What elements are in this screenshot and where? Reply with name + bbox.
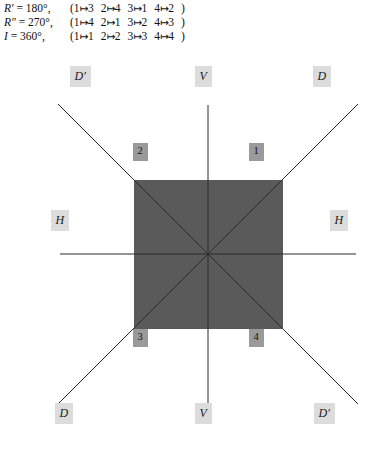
equation-line: I = 360°, (1↦12↦23↦34↦4) — [4, 30, 304, 44]
mapsto-icon: ↦ — [133, 16, 141, 28]
map-to: 1 — [115, 16, 121, 28]
mapping: 4↦2 — [154, 2, 174, 14]
mapsto-icon: ↦ — [133, 30, 141, 42]
equation-permutation: (1↦12↦23↦34↦4) — [70, 30, 185, 42]
map-to: 3 — [88, 2, 94, 14]
corner-label-1: 1 — [249, 143, 264, 161]
equation-lhs: R″ = 270°, — [4, 16, 70, 28]
equation-symbol: I — [4, 30, 8, 42]
equation-lhs: R′ = 180°, — [4, 2, 70, 14]
mapsto-icon: ↦ — [106, 2, 114, 14]
mapsto-icon: ↦ — [133, 2, 141, 14]
mapping: 3↦3 — [127, 30, 147, 42]
mapping: 4↦4 — [154, 30, 174, 42]
map-to: 2 — [142, 16, 148, 28]
mapsto-icon: ↦ — [80, 16, 88, 28]
mapping: 4↦3 — [154, 16, 174, 28]
equation-equals: = — [11, 30, 18, 42]
map-to: 2 — [168, 2, 174, 14]
equation-equals: = — [19, 16, 26, 28]
map-to: 1 — [88, 30, 94, 42]
mapsto-icon: ↦ — [106, 16, 114, 28]
mapping: 1↦1 — [74, 30, 94, 42]
equation-line: R″ = 270°, (1↦42↦13↦24↦3) — [4, 16, 304, 30]
map-to: 4 — [115, 2, 121, 14]
equation-line: R′ = 180°, (1↦32↦43↦14↦2) — [4, 2, 304, 16]
mapping: 3↦2 — [127, 16, 147, 28]
equation-comma: , — [48, 2, 51, 14]
mapping: 2↦2 — [101, 30, 121, 42]
mapsto-icon: ↦ — [106, 30, 114, 42]
equation-permutation: (1↦42↦13↦24↦3) — [70, 16, 185, 28]
axis-label-d-bottom-left: D — [55, 403, 74, 424]
map-to: 3 — [142, 30, 148, 42]
mapping: 1↦4 — [74, 16, 94, 28]
paren-close: ) — [181, 2, 185, 14]
map-to: 3 — [168, 16, 174, 28]
axis-label-v-top: V — [195, 66, 212, 87]
map-to: 4 — [168, 30, 174, 42]
map-to: 1 — [142, 2, 148, 14]
axis-label-h-right: H — [330, 210, 349, 231]
mapping: 1↦3 — [74, 2, 94, 14]
equations-block: R′ = 180°, (1↦32↦43↦14↦2) R″ = 270°, (1↦… — [4, 2, 304, 44]
mapping: 2↦4 — [101, 2, 121, 14]
mapsto-icon: ↦ — [80, 2, 88, 14]
corner-label-4: 4 — [249, 329, 264, 347]
equation-lhs: I = 360°, — [4, 30, 70, 42]
figure-page: R′ = 180°, (1↦32↦43↦14↦2) R″ = 270°, (1↦… — [0, 0, 377, 449]
equation-equals: = — [16, 2, 23, 14]
mapsto-icon: ↦ — [80, 30, 88, 42]
paren-close: ) — [181, 30, 185, 42]
equation-symbol: R″ — [4, 16, 16, 28]
equation-symbol: R′ — [4, 2, 14, 14]
axis-label-d-prime-bottom-right: D′ — [314, 403, 335, 424]
axis-label-d-prime-top-left: D′ — [70, 66, 91, 87]
equation-permutation: (1↦32↦43↦14↦2) — [70, 2, 185, 14]
equation-angle: 270° — [28, 16, 50, 28]
mapping: 3↦1 — [127, 2, 147, 14]
corner-label-3: 3 — [133, 329, 148, 347]
corner-label-2: 2 — [133, 143, 148, 161]
axis-label-v-bottom: V — [195, 403, 212, 424]
equation-comma: , — [42, 30, 45, 42]
mapping: 2↦1 — [101, 16, 121, 28]
map-to: 2 — [115, 30, 121, 42]
axis-label-h-left: H — [51, 210, 70, 231]
paren-close: ) — [181, 16, 185, 28]
symmetry-diagram: D′ V D H H D V D′ 1 2 3 4 — [0, 56, 377, 449]
symmetry-diagram-svg — [0, 56, 377, 449]
equation-angle: 180° — [26, 2, 48, 14]
equation-comma: , — [50, 16, 53, 28]
equation-angle: 360° — [20, 30, 42, 42]
axis-label-d-top-right: D — [313, 66, 332, 87]
map-to: 4 — [88, 16, 94, 28]
